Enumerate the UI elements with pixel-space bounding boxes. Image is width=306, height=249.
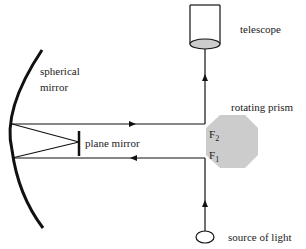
arrow-up-icon	[202, 200, 208, 207]
arrow-right-icon	[129, 121, 136, 127]
beam-to-plane-mirror-upper	[12, 124, 79, 142]
source-of-light-label: source of light	[228, 231, 292, 243]
telescope-lens	[190, 39, 220, 49]
beam-to-plane-mirror-lower	[12, 142, 79, 158]
light-source	[196, 231, 214, 243]
arrow-up-icon	[202, 74, 208, 81]
spherical-mirror	[10, 50, 43, 228]
face-f1-subscript: 1	[215, 155, 219, 164]
spherical-mirror-label-line2: mirror	[40, 81, 68, 93]
face-f2-subscript: 2	[215, 134, 219, 143]
arrow-left-icon	[130, 155, 137, 161]
spherical-mirror-label-line1: spherical	[40, 65, 80, 77]
telescope-label: telescope	[240, 23, 281, 35]
michelson-apparatus-diagram: telescope spherical mirror rotating pris…	[0, 0, 306, 249]
rotating-prism-label: rotating prism	[231, 101, 293, 113]
plane-mirror-label: plane mirror	[85, 137, 140, 149]
telescope	[190, 5, 220, 49]
